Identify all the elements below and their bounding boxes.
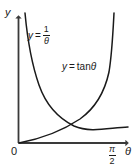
axis-label-x: θ <box>125 146 131 157</box>
annotation-tangent-variable: θ <box>91 62 96 72</box>
annotation-tangent-lhs: y <box>62 62 67 72</box>
annotation-tangent-function: tan <box>77 62 91 72</box>
annotation-reciprocal-denominator: θ <box>43 35 50 46</box>
annotation-reciprocal-lhs: y <box>28 31 33 41</box>
annotation-tangent-relation: = <box>69 62 75 72</box>
plot-canvas <box>0 0 140 166</box>
annotation-reciprocal-relation: = <box>35 31 41 41</box>
annotation-reciprocal-fraction: 1 θ <box>43 25 50 46</box>
annotation-reciprocal: y = 1 θ <box>28 25 50 46</box>
math-figure: y θ 0 π 2 y = 1 θ y = tan θ <box>0 0 140 166</box>
x-tick-label-pi-over-two: π 2 <box>108 145 116 166</box>
origin-label: 0 <box>11 146 17 157</box>
tick-numerator: π <box>108 145 116 155</box>
annotation-tangent: y = tan θ <box>62 62 96 72</box>
tick-denominator: 2 <box>109 155 116 166</box>
axis-label-y: y <box>5 7 11 18</box>
annotation-reciprocal-numerator: 1 <box>43 25 50 35</box>
